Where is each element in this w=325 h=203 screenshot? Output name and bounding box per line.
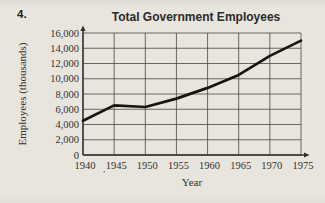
chart-tick-labels: 02,0004,0006,0008,00010,00012,00014,0001… [50, 28, 313, 172]
y-tick-label: 8,000 [55, 89, 79, 100]
line-chart: 02,0004,0006,0008,00010,00012,00014,0001… [0, 0, 325, 203]
x-axis-title: Year [182, 176, 203, 188]
chart-title: Total Government Employees [112, 10, 281, 24]
x-tick-label: 1970 [261, 160, 282, 171]
problem-number: 4. [17, 8, 27, 20]
chart-data-line [83, 41, 301, 121]
x-tick-label: 1940 [75, 160, 96, 171]
scan-artifact-comma: , [103, 164, 105, 174]
y-tick-label: 0 [74, 150, 79, 161]
y-axis-arrow [80, 26, 85, 32]
x-tick-label: 1955 [168, 160, 189, 171]
x-tick-label: 1960 [199, 160, 220, 171]
y-tick-label: 6,000 [55, 104, 79, 115]
x-axis-arrow [304, 152, 310, 157]
scanned-textbook-chart: 4. 02,0004,0006,0008,00010,00012,00014,0… [0, 0, 325, 203]
y-tick-label: 2,000 [55, 134, 79, 145]
x-tick-label: 1945 [106, 160, 127, 171]
y-tick-label: 16,000 [50, 28, 79, 39]
data-polyline [83, 41, 301, 121]
x-tick-label: 1950 [137, 160, 158, 171]
y-tick-label: 10,000 [50, 73, 79, 84]
y-tick-label: 14,000 [50, 43, 79, 54]
y-axis-title: Employees (thousands) [16, 42, 29, 145]
x-tick-label: 1965 [230, 160, 251, 171]
y-tick-label: 12,000 [50, 58, 79, 69]
x-tick-label: 1975 [293, 160, 314, 171]
y-tick-label: 4,000 [55, 119, 79, 130]
